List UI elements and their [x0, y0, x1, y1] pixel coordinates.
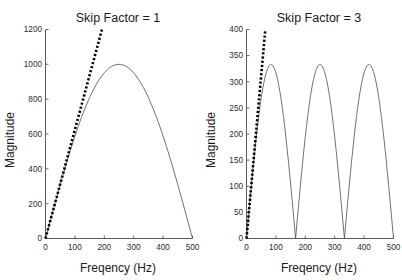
x-tick-label: 0 [43, 243, 48, 252]
x-tick-label: 400 [357, 243, 371, 252]
y-tick-label: 150 [229, 156, 243, 165]
panel-title: Skip Factor = 1 [76, 11, 160, 25]
x-axis-label: Freqency (Hz) [281, 261, 357, 275]
x-tick-label: 400 [156, 243, 170, 252]
plot-series-group [46, 30, 193, 239]
y-tick-label: 800 [28, 95, 42, 104]
x-tick-label: 200 [298, 243, 312, 252]
y-tick-label: 250 [229, 104, 243, 113]
x-axis-label: Freqency (Hz) [80, 261, 156, 275]
x-tick-label: 500 [387, 243, 401, 252]
y-tick-label: 0 [238, 234, 243, 243]
x-tick-label: 500 [186, 243, 200, 252]
y-tick-label: 0 [37, 234, 42, 243]
y-tick-label: 300 [229, 78, 243, 87]
x-axis-ticks: 0 100 200 300 400 500 [43, 236, 200, 253]
chart-panel-skip-factor-1: Skip Factor = 1 Magnitude Freqency (Hz) … [0, 0, 201, 280]
x-tick-label: 100 [68, 243, 82, 252]
y-tick-label: 100 [229, 182, 243, 191]
series-magnitude-response [46, 64, 193, 238]
y-tick-label: 400 [28, 165, 42, 174]
x-tick-label: 300 [127, 243, 141, 252]
y-tick-label: 50 [234, 208, 244, 217]
axis-lines [46, 30, 193, 239]
y-tick-label: 1000 [24, 60, 43, 69]
y-tick-label: 400 [229, 25, 243, 34]
chart-panel-skip-factor-3: Skip Factor = 3 Magnitude Freqency (Hz) … [201, 0, 402, 280]
x-tick-label: 300 [328, 243, 342, 252]
figure-canvas: Skip Factor = 1 Magnitude Freqency (Hz) … [0, 0, 402, 280]
x-axis-ticks: 0 100 200 300 400 500 [244, 236, 401, 253]
axis-lines [247, 30, 394, 239]
x-tick-label: 100 [269, 243, 283, 252]
x-tick-label: 200 [97, 243, 111, 252]
y-tick-label: 350 [229, 51, 243, 60]
y-tick-label: 200 [229, 130, 243, 139]
y-tick-label: 1200 [24, 25, 43, 34]
panel-title: Skip Factor = 3 [277, 11, 361, 25]
series-magnitude-response [247, 65, 394, 239]
y-axis-ticks: 0 200 400 600 800 1000 1200 [24, 25, 49, 243]
y-tick-label: 600 [28, 130, 42, 139]
y-axis-label: Magnitude [204, 112, 218, 168]
plot-series-group [247, 30, 394, 239]
y-axis-label: Magnitude [3, 112, 17, 168]
y-tick-label: 200 [28, 200, 42, 209]
x-tick-label: 0 [244, 243, 249, 252]
